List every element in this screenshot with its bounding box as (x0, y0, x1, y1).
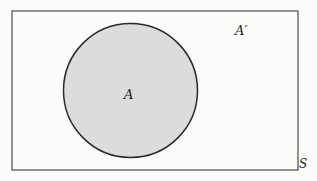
universal-set-label: S (299, 158, 307, 170)
venn-diagram (0, 0, 317, 181)
complement-label: A′ (235, 24, 247, 37)
set-a-label: A (124, 88, 133, 101)
